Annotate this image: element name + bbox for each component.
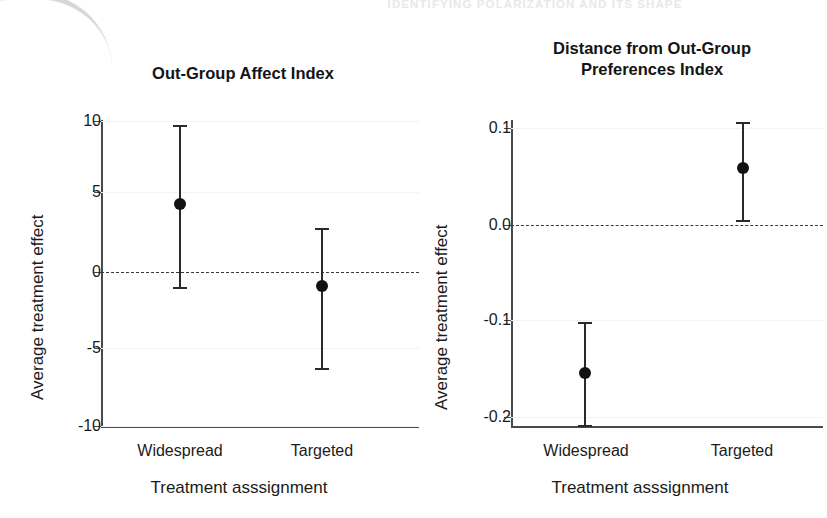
y-tick-label-right-1: 0.0	[449, 216, 511, 234]
y-tick-label-right-2: -0.1	[449, 311, 511, 329]
x-category-left-targeted: Targeted	[291, 442, 353, 460]
errorbar-cap-upper	[736, 122, 750, 124]
errorbar-stem	[321, 228, 323, 370]
gridline	[101, 121, 419, 122]
y-tick-label-left-4: -10	[51, 417, 101, 435]
y-tick-label-right-3: -0.2	[449, 408, 511, 426]
gridline	[511, 417, 823, 418]
data-point-targeted	[737, 162, 749, 174]
panel-title-right-line2: Preferences Index	[581, 60, 723, 78]
gridline	[101, 348, 419, 349]
errorbar-cap-upper	[315, 228, 329, 230]
x-axis-label-left: Treatment asssignment	[0, 478, 454, 498]
errorbar-cap-upper	[173, 125, 187, 127]
x-category-right-widespread: Widespread	[543, 442, 628, 460]
errorbar-cap-lower	[736, 220, 750, 222]
data-point-widespread	[174, 198, 186, 210]
errorbar-cap-lower	[315, 368, 329, 370]
gridline	[511, 320, 823, 321]
panel-title-right: Distance from Out-Group Preferences Inde…	[410, 38, 827, 80]
plot-area-right: 0.1 0.0 -0.1 -0.2	[511, 120, 823, 428]
plot-area-left: 10 5 0 -5 -10	[101, 120, 419, 428]
y-axis-line-left	[101, 120, 103, 428]
data-point-targeted	[316, 280, 328, 292]
errorbar-cap-lower	[578, 425, 592, 427]
panel-title-right-line1: Distance from Out-Group	[553, 39, 751, 57]
data-point-widespread	[579, 367, 591, 379]
y-axis-label-left: Average treatment effect	[28, 214, 48, 400]
x-category-right-targeted: Targeted	[711, 442, 773, 460]
gridline	[101, 192, 419, 193]
errorbar-cap-lower	[173, 287, 187, 289]
y-tick-label-left-3: -5	[51, 339, 101, 357]
y-axis-line-right	[511, 120, 513, 428]
x-axis-label-right: Treatment asssignment	[410, 478, 827, 498]
panel-out-group-affect: Out-Group Affect Index Average treatment…	[0, 0, 430, 518]
y-tick-label-left-1: 5	[51, 183, 101, 201]
gridline	[511, 128, 823, 129]
y-tick-label-left-0: 10	[51, 112, 101, 130]
y-tick-label-right-0: 0.1	[449, 119, 511, 137]
panel-distance-from-out-group-preferences: Distance from Out-Group Preferences Inde…	[410, 0, 822, 518]
y-tick-label-left-2: 0	[51, 263, 101, 281]
gridline	[101, 426, 419, 427]
errorbar-cap-upper	[578, 322, 592, 324]
zero-reference-line-right	[511, 225, 823, 226]
panel-title-left: Out-Group Affect Index	[0, 63, 458, 84]
x-axis-line-right	[511, 426, 823, 428]
zero-reference-line-left	[101, 272, 419, 273]
x-category-left-widespread: Widespread	[137, 442, 222, 460]
